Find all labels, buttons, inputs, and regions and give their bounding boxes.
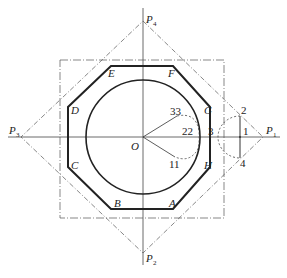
svg-text:P: P [145, 13, 153, 25]
octagon [68, 66, 210, 209]
pole-p4-label: P 4 [145, 13, 157, 28]
svg-text:1: 1 [273, 131, 277, 139]
svg-text:P: P [145, 252, 153, 264]
svg-text:P: P [8, 124, 16, 136]
svg-text:2: 2 [153, 259, 157, 267]
pole-p2-label: P 2 [145, 252, 157, 267]
vertex-label-d: D [70, 104, 79, 116]
point-label-2: 2 [241, 104, 247, 116]
svg-text:P: P [265, 124, 273, 136]
vertex-label-f: F [167, 67, 175, 79]
point-label-11: 11 [169, 158, 180, 170]
point-label-33: 33 [170, 105, 182, 117]
point-label-3: 3 [208, 125, 214, 137]
vertex-label-b: B [114, 197, 121, 209]
radius-to-11 [143, 137, 175, 157]
svg-text:3: 3 [16, 131, 20, 139]
point-1-marker [239, 136, 241, 138]
point-label-4: 4 [240, 157, 246, 169]
point-label-22: 22 [182, 125, 193, 137]
vertex-label-c: C [71, 159, 79, 171]
svg-text:4: 4 [153, 20, 157, 28]
center-label-o: O [131, 140, 139, 152]
vertex-label-h: H [203, 159, 213, 171]
radius-to-33 [143, 116, 177, 137]
vertex-label-e: E [107, 67, 115, 79]
point-label-1: 1 [243, 125, 249, 137]
geometric-construction-diagram: P 4 P 2 P 3 P 1 O E F D G C H B A 33 22 … [0, 0, 287, 278]
vertex-label-a: A [168, 197, 176, 209]
vertex-label-g: G [204, 104, 212, 116]
